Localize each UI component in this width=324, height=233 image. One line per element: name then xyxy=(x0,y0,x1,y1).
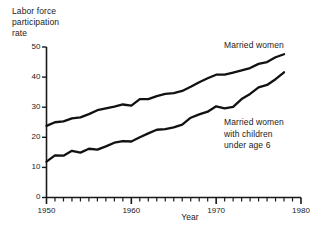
y-tick-label: 20 xyxy=(17,132,41,141)
x-tick-label: 1950 xyxy=(31,206,63,215)
y-tick-label: 30 xyxy=(17,102,41,111)
x-tick-label: 1960 xyxy=(115,206,147,215)
y-tick-label: 0 xyxy=(17,192,41,201)
x-tick-label: 1980 xyxy=(285,206,317,215)
x-axis-minor-ticks xyxy=(47,198,302,205)
series-annotation-married-women: Married women xyxy=(224,40,284,52)
series-line-0 xyxy=(47,54,285,126)
y-tick-label: 40 xyxy=(17,72,41,81)
y-tick-label: 10 xyxy=(17,162,41,171)
chart-figure: Labor force participation rate 010203040… xyxy=(0,0,324,233)
x-axis-label: Year xyxy=(160,212,220,223)
y-tick-label: 50 xyxy=(17,42,41,51)
series-annotation-married-women-with-children: Married women with children under age 6 xyxy=(224,117,284,152)
